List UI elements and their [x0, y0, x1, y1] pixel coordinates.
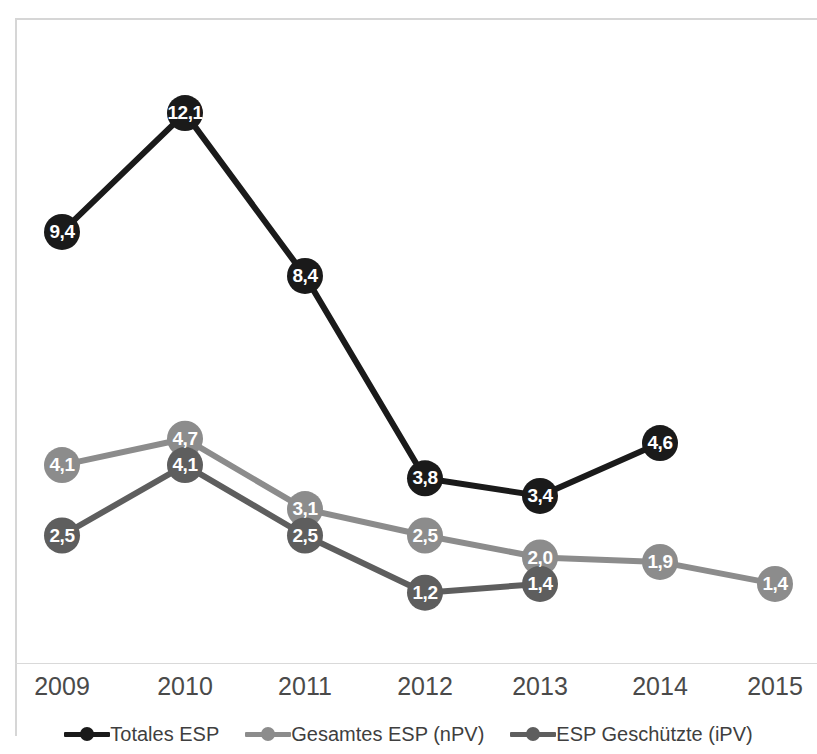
legend-label: ESP Geschützte (iPV): [556, 723, 752, 746]
chart-plot: [0, 0, 817, 754]
data-point-marker: [522, 566, 558, 602]
x-tick-2013: 2013: [512, 672, 568, 701]
x-axis-tick-labels: 2009201020112012201320142015: [0, 672, 817, 708]
x-tick-2010: 2010: [157, 672, 213, 701]
x-tick-2009: 2009: [34, 672, 90, 701]
data-point-marker: [44, 518, 80, 554]
data-point-marker: [44, 447, 80, 483]
x-tick-2014: 2014: [632, 672, 688, 701]
data-point-marker: [287, 258, 323, 294]
data-point-marker: [522, 478, 558, 514]
chart-container: 9,412,18,43,83,44,64,14,73,12,52,01,91,4…: [0, 0, 817, 754]
data-point-marker: [167, 95, 203, 131]
data-point-marker: [44, 214, 80, 250]
line-dot-marker-icon: [245, 725, 291, 743]
data-point-marker: [642, 544, 678, 580]
x-tick-2011: 2011: [278, 672, 332, 701]
x-tick-2015: 2015: [747, 672, 803, 701]
legend-label: Totales ESP: [110, 723, 219, 746]
line-dot-marker-icon: [510, 725, 556, 743]
data-point-marker: [167, 447, 203, 483]
line-dot-marker-icon: [64, 725, 110, 743]
data-point-marker: [407, 575, 443, 611]
legend-label: Gesamtes ESP (nPV): [291, 723, 484, 746]
x-tick-2012: 2012: [397, 672, 453, 701]
data-point-marker: [757, 566, 793, 602]
chart-legend: Totales ESPGesamtes ESP (nPV)ESP Geschüt…: [0, 714, 817, 754]
data-point-marker: [407, 518, 443, 554]
legend-item[interactable]: ESP Geschützte (iPV): [510, 723, 752, 746]
series-line: [62, 113, 660, 496]
series-markers-group: [44, 95, 793, 611]
legend-item[interactable]: Totales ESP: [64, 723, 219, 746]
data-point-marker: [287, 518, 323, 554]
data-point-marker: [642, 425, 678, 461]
data-point-marker: [407, 460, 443, 496]
legend-item[interactable]: Gesamtes ESP (nPV): [245, 723, 484, 746]
